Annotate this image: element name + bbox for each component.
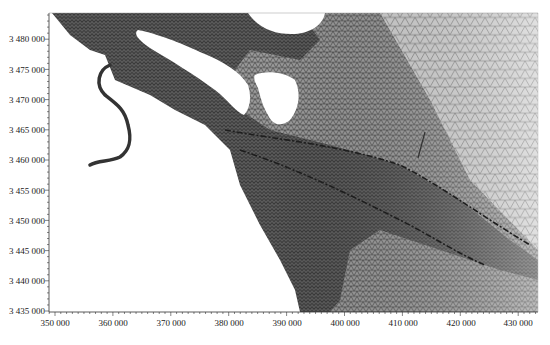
- y-tick-label: 3 440 000: [9, 276, 46, 286]
- y-tick-label: 3 455 000: [9, 186, 46, 196]
- x-tick-label: 380 000: [214, 318, 244, 328]
- x-tick-label: 430 000: [503, 318, 533, 328]
- x-tick-label: 420 000: [446, 318, 476, 328]
- x-tick-label: 400 000: [330, 318, 360, 328]
- y-tick-label: 3 480 000: [9, 34, 46, 44]
- mesh-area: [49, 13, 538, 312]
- x-tick-labels: 350 000 360 000 370 000 380 000 390 000 …: [40, 318, 533, 328]
- y-tick-label: 3 470 000: [9, 95, 46, 105]
- y-tick-labels: 3 435 000 3 440 000 3 445 000 3 450 000 …: [9, 34, 46, 316]
- x-tick-label: 410 000: [388, 318, 418, 328]
- y-tick-label: 3 445 000: [9, 246, 46, 256]
- y-tick-label: 3 465 000: [9, 125, 46, 135]
- y-tick-label: 3 435 000: [9, 306, 46, 316]
- x-tick-label: 360 000: [98, 318, 128, 328]
- y-tick-label: 3 460 000: [9, 155, 46, 165]
- y-tick-label: 3 475 000: [9, 65, 46, 75]
- x-tick-label: 350 000: [40, 318, 70, 328]
- mesh-chart: 350 000 360 000 370 000 380 000 390 000 …: [0, 0, 550, 345]
- x-tick-label: 390 000: [272, 318, 302, 328]
- y-tick-label: 3 450 000: [9, 216, 46, 226]
- x-tick-label: 370 000: [156, 318, 186, 328]
